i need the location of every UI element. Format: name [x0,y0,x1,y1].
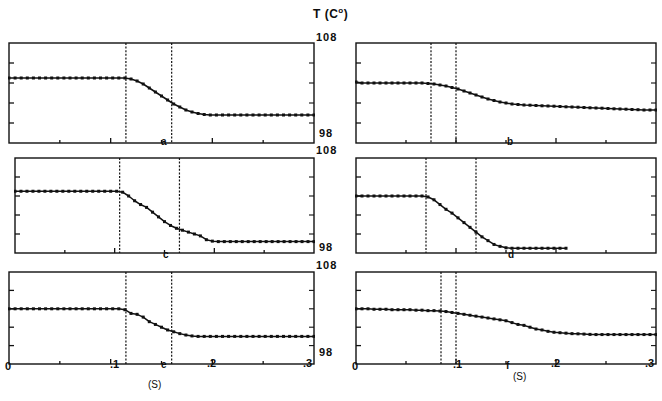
panel-b-plot [355,42,657,144]
data-point-marker [32,307,35,310]
data-point-marker [613,107,616,110]
y-axis-max-label-row2: 108 [316,259,337,271]
data-point-marker [631,108,634,111]
panel-b-label: b [507,136,513,147]
panel-frame [15,158,314,253]
data-point-marker [221,335,224,338]
data-point-marker [415,309,418,312]
data-point-marker [154,323,157,326]
data-point-marker [252,114,255,117]
data-point-marker [117,77,120,80]
data-point-marker [379,82,382,85]
data-point-marker [307,240,310,243]
data-point-marker [463,90,466,93]
data-point-marker [115,190,118,193]
panel-e [8,271,315,365]
data-point-marker [541,104,544,107]
data-point-marker [160,95,163,98]
data-point-marker [239,335,242,338]
data-point-marker [166,328,169,331]
data-point-marker [391,195,394,198]
data-point-marker [8,77,11,80]
data-point-marker [105,307,108,310]
data-point-marker [62,77,65,80]
data-point-marker [457,312,460,315]
data-point-marker [136,313,139,316]
data-point-marker [199,234,202,237]
data-point-marker [643,333,646,336]
data-point-marker [229,240,232,243]
data-point-marker [517,103,520,106]
data-point-marker [397,195,400,198]
data-point-marker [93,307,96,310]
data-point-marker [313,240,316,243]
data-point-marker [130,78,133,81]
data-point-marker [43,190,46,193]
data-point-marker [289,240,292,243]
data-point-marker [69,77,72,80]
data-point-marker [252,335,255,338]
data-point-marker [178,106,181,109]
data-point-marker [625,333,628,336]
data-point-marker [19,190,22,193]
data-point-marker [577,106,580,109]
data-point-marker [553,105,556,108]
data-point-marker [282,335,285,338]
data-point-marker [385,308,388,311]
data-point-marker [487,98,490,101]
panel-frame [9,43,314,143]
data-point-marker [130,312,133,315]
x-axis-unit-right: (S) [513,371,526,382]
data-point-marker [517,323,520,326]
data-point-marker [391,308,394,311]
data-point-marker [409,82,412,85]
data-point-marker [355,195,358,198]
data-point-marker [288,114,291,117]
xtick-left-3: .3 [303,357,312,369]
data-point-marker [56,77,59,80]
data-point-marker [166,99,169,102]
data-point-marker [142,316,145,319]
data-point-marker [235,240,238,243]
data-point-marker [637,108,640,111]
y-axis-min-label-row2: 98 [319,346,333,358]
data-point-marker [151,211,154,214]
data-point-marker [559,247,562,250]
data-point-marker [361,307,364,310]
data-point-marker [111,77,114,80]
data-point-marker [379,195,382,198]
data-point-marker [62,307,65,310]
data-point-marker [306,114,309,117]
data-point-marker [258,114,261,117]
y-axis-max-label-row0: 108 [316,31,337,43]
data-point-marker [571,332,574,335]
panel-e-label: e [161,359,167,370]
data-point-marker [288,335,291,338]
data-point-marker [99,77,102,80]
data-point-marker [505,102,508,105]
panel-d-label: d [508,249,514,260]
data-point-marker [439,310,442,313]
data-point-marker [197,335,200,338]
data-point-marker [264,335,267,338]
data-point-marker [187,231,190,234]
data-point-marker [111,307,114,310]
data-point-marker [373,82,376,85]
data-point-marker [433,309,436,312]
data-point-marker [14,190,17,193]
data-point-marker [172,103,175,106]
data-point-marker [91,190,94,193]
data-point-marker [300,114,303,117]
data-point-marker [117,307,120,310]
y-axis-title: T (Co) [313,6,348,21]
data-point-marker [270,114,273,117]
data-point-marker [385,195,388,198]
x-axis-unit-left: (S) [148,379,161,390]
data-point-marker [75,77,78,80]
data-point-marker [258,335,261,338]
data-point-marker [50,307,53,310]
data-point-marker [38,307,41,310]
data-point-marker [142,83,145,86]
data-point-marker [493,243,496,246]
data-point-marker [445,208,448,211]
